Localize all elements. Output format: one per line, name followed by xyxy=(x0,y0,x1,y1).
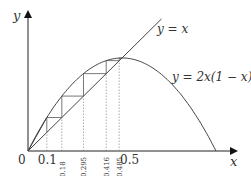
x-tick-label: 0.416 xyxy=(103,156,111,176)
origin-label: 0 xyxy=(18,153,26,167)
x-tick-labels: 0.10.180.2950.4160.4850.5 xyxy=(38,153,139,176)
cobweb-diagram: y x 0 y = x y = 2x(1 − x) 0.10.180.2950.… xyxy=(0,0,251,176)
y-axis-label: y xyxy=(12,8,21,23)
x-tick-label: 0.5 xyxy=(120,153,139,167)
plot-area xyxy=(28,19,216,151)
parabola-label: y = 2x(1 − x) xyxy=(171,70,251,84)
cobweb-start xyxy=(28,118,47,151)
identity-line xyxy=(28,19,161,151)
line-label: y = x xyxy=(156,22,188,36)
x-tick-label: 0.295 xyxy=(80,157,88,176)
x-tick-label: 0.18 xyxy=(59,161,67,176)
x-axis-label: x xyxy=(230,154,238,169)
x-tick-label: 0.1 xyxy=(38,153,57,167)
